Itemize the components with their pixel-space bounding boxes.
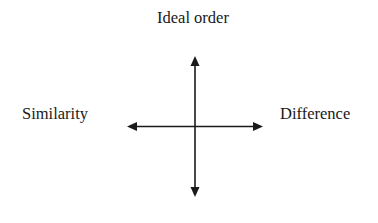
arrow-left-icon (127, 122, 137, 131)
axes-diagram (0, 0, 378, 223)
arrow-down-icon (191, 187, 200, 197)
arrow-right-icon (253, 122, 263, 131)
arrow-up-icon (191, 56, 200, 66)
